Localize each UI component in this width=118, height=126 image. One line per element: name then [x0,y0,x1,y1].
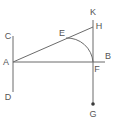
label-point-f: F [94,64,100,74]
label-point-e: E [59,28,65,38]
geometry-diagram: C A D E K H B F G [0,0,118,126]
angle-arc-ef [66,38,93,62]
label-point-h: H [96,21,103,31]
label-point-k: K [90,7,96,17]
label-point-g: G [89,109,96,119]
label-point-c: C [5,31,12,41]
geometry-canvas: C A D E K H B F G [0,0,118,126]
label-point-d: D [5,92,12,102]
label-point-b: B [105,51,111,61]
point-marker-g [91,102,95,106]
segment-ah [13,27,93,62]
label-point-a: A [3,57,9,67]
